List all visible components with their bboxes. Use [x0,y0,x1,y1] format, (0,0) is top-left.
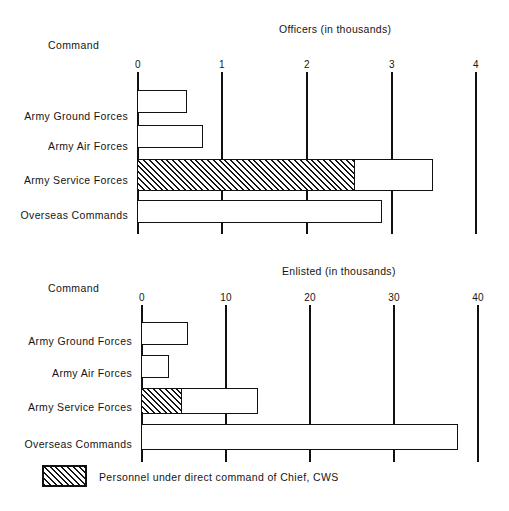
figure-two-bar-charts: Command Officers (in thousands) 0 1 2 3 … [0,0,509,511]
officers-gridline-3 [391,78,393,234]
legend-hatch-swatch [42,465,87,487]
officers-category-label-army-ground-forces: Army Ground Forces [0,110,128,122]
panel-enlisted-command-header: Command [48,282,99,294]
panel-officers-title: Officers (in thousands) [279,23,391,35]
officers-tick-label-0: 0 [135,59,141,70]
enlisted-category-label-army-air-forces: Army Air Forces [0,367,132,379]
enlisted-gridline-40 [477,311,479,462]
enlisted-tick-label-10: 10 [220,292,232,303]
enlisted-bar-total-overseas-commands [141,424,458,450]
enlisted-bar-total-army-ground-forces [141,322,188,345]
officers-category-label-army-air-forces: Army Air Forces [0,140,128,152]
officers-bar-cws-army-service-forces [137,159,355,191]
officers-tick-label-4: 4 [473,59,479,70]
enlisted-tick-label-40: 40 [472,292,484,303]
officers-gridline-4 [475,78,477,234]
officers-tick-label-2: 2 [304,59,310,70]
enlisted-bar-cws-army-service-forces [141,388,182,414]
enlisted-category-label-army-service-forces: Army Service Forces [0,401,132,413]
officers-category-label-army-service-forces: Army Service Forces [0,174,128,186]
enlisted-tick-label-20: 20 [304,292,316,303]
panel-enlisted-title: Enlisted (in thousands) [282,265,396,277]
enlisted-category-label-army-ground-forces: Army Ground Forces [0,335,132,347]
legend-label: Personnel under direct command of Chief,… [99,471,339,483]
officers-category-label-overseas-commands: Overseas Commands [0,209,128,221]
enlisted-tick-label-0: 0 [139,292,145,303]
officers-tick-label-1: 1 [219,59,225,70]
officers-bar-total-overseas-commands [137,200,382,223]
officers-bar-total-army-air-forces [137,125,203,148]
enlisted-category-label-overseas-commands: Overseas Commands [0,438,132,450]
panel-officers: Command Officers (in thousands) 0 1 2 3 … [0,0,509,250]
officers-tick-label-3: 3 [389,59,395,70]
panel-officers-command-header: Command [48,39,99,51]
enlisted-tick-label-30: 30 [388,292,400,303]
enlisted-bar-total-army-air-forces [141,355,169,378]
officers-bar-total-army-ground-forces [137,90,187,113]
